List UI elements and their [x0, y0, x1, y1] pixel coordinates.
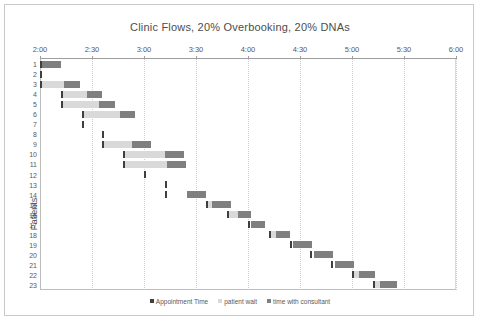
bar-segment-patient-wait: [104, 141, 132, 148]
bar-marker-appointment-time: [61, 101, 63, 108]
y-tick-label: 21: [15, 261, 37, 268]
bar-segment-time-with-consultant: [251, 221, 265, 228]
y-tick-label: 19: [15, 241, 37, 248]
bar-marker-appointment-time: [123, 151, 125, 158]
y-tick-label: 3: [15, 81, 37, 88]
bar-segment-time-with-consultant: [167, 161, 186, 168]
bar-marker-appointment-time: [310, 251, 312, 258]
gridline: [248, 59, 249, 290]
bar-segment-time-with-consultant: [335, 261, 354, 268]
bar-segment-time-with-consultant: [293, 241, 312, 248]
x-tick-label: 2:30: [85, 45, 100, 54]
x-tick-label: 5:00: [345, 45, 360, 54]
bar-segment-time-with-consultant: [187, 191, 206, 198]
bar-segment-time-with-consultant: [64, 81, 80, 88]
bar-marker-appointment-time: [40, 81, 42, 88]
bar-marker-appointment-time: [227, 211, 229, 218]
bar-marker-appointment-time: [102, 131, 104, 138]
bar-segment-time-with-consultant: [212, 201, 231, 208]
y-tick-label: 5: [15, 101, 37, 108]
legend-label: patient wait: [224, 298, 257, 305]
bar-marker-appointment-time: [144, 171, 146, 178]
plot-area: 1234567891011121314151617181920212223 Pa…: [40, 59, 456, 290]
bar-segment-time-with-consultant: [165, 151, 184, 158]
legend-swatch: [267, 299, 271, 303]
bar-marker-appointment-time: [269, 231, 271, 238]
x-tick-label: 3:00: [137, 45, 152, 54]
bar-segment-time-with-consultant: [132, 141, 151, 148]
bar-segment-time-with-consultant: [42, 61, 61, 68]
bar-segment-patient-wait: [42, 81, 65, 88]
bar-marker-appointment-time: [102, 141, 104, 148]
legend-item: time with consultant: [267, 297, 330, 305]
bar-segment-time-with-consultant: [120, 111, 136, 118]
bar-marker-appointment-time: [40, 71, 42, 78]
y-axis-title: Patients: [29, 198, 39, 231]
bar-marker-appointment-time: [290, 241, 292, 248]
bar-segment-patient-wait: [229, 211, 238, 218]
bar-marker-appointment-time: [82, 121, 84, 128]
x-tick-label: 4:30: [293, 45, 308, 54]
bar-marker-appointment-time: [248, 221, 250, 228]
y-tick-label: 1: [15, 61, 37, 68]
bar-segment-time-with-consultant: [87, 91, 103, 98]
chart-title: Clinic Flows, 20% Overbooking, 20% DNAs: [5, 21, 475, 33]
bar-segment-time-with-consultant: [238, 211, 252, 218]
y-tick-label: 23: [15, 281, 37, 288]
gridline: [300, 59, 301, 290]
bar-marker-appointment-time: [331, 261, 333, 268]
y-tick-label: 12: [15, 171, 37, 178]
bar-marker-appointment-time: [165, 191, 167, 198]
bar-segment-time-with-consultant: [314, 251, 333, 258]
y-tick-label: 13: [15, 181, 37, 188]
bar-segment-time-with-consultant: [359, 271, 375, 278]
legend-label: time with consultant: [273, 298, 330, 305]
legend-item: patient wait: [218, 297, 257, 305]
chart-frame: Clinic Flows, 20% Overbooking, 20% DNAs …: [4, 4, 474, 316]
y-tick-label: 18: [15, 231, 37, 238]
y-tick-label: 10: [15, 151, 37, 158]
chart-legend: Appointment Timepatient waittime with co…: [5, 297, 475, 305]
y-tick-label: 22: [15, 271, 37, 278]
gridline: [404, 59, 405, 290]
legend-item: Appointment Time: [150, 297, 208, 305]
y-tick-label: 2: [15, 71, 37, 78]
legend-swatch: [150, 299, 154, 303]
bar-segment-time-with-consultant: [276, 231, 290, 238]
bar-segment-patient-wait: [63, 101, 99, 108]
bar-marker-appointment-time: [165, 181, 167, 188]
y-tick-label: 8: [15, 131, 37, 138]
bar-marker-appointment-time: [373, 281, 375, 288]
y-tick-label: 7: [15, 121, 37, 128]
x-tick-label: 2:00: [33, 45, 48, 54]
gridline: [352, 59, 353, 290]
y-tick-label: 9: [15, 141, 37, 148]
bar-segment-patient-wait: [125, 161, 167, 168]
bar-marker-appointment-time: [40, 61, 42, 68]
bar-segment-patient-wait: [63, 91, 87, 98]
legend-label: Appointment Time: [156, 298, 208, 305]
gridline: [196, 59, 197, 290]
bar-segment-time-with-consultant: [99, 101, 115, 108]
bar-marker-appointment-time: [352, 271, 354, 278]
y-tick-label: 20: [15, 251, 37, 258]
bar-marker-appointment-time: [82, 111, 84, 118]
x-tick-label: 5:30: [397, 45, 412, 54]
bar-marker-appointment-time: [206, 201, 208, 208]
x-tick-label: 3:30: [189, 45, 204, 54]
bar-segment-patient-wait: [125, 151, 165, 158]
bar-marker-appointment-time: [123, 161, 125, 168]
bar-marker-appointment-time: [61, 91, 63, 98]
gridline: [456, 59, 457, 290]
y-tick-label: 4: [15, 91, 37, 98]
legend-swatch: [218, 299, 222, 303]
x-tick-label: 4:00: [241, 45, 256, 54]
y-tick-label: 6: [15, 111, 37, 118]
y-tick-label: 11: [15, 161, 37, 168]
x-tick-label: 6:00: [449, 45, 464, 54]
bar-segment-time-with-consultant: [380, 281, 397, 288]
bar-segment-patient-wait: [83, 111, 119, 118]
